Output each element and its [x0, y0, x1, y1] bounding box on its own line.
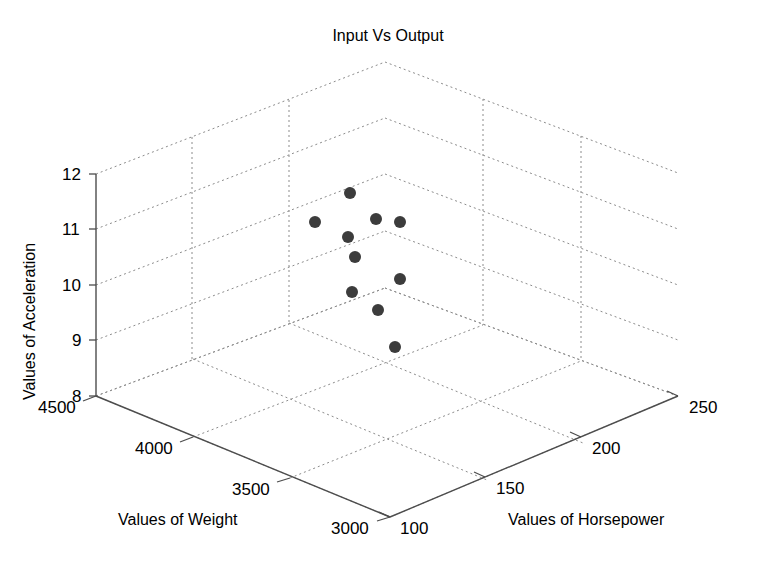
z-tick-label-10: 10: [62, 277, 81, 294]
x-tick-label-3000: 3000: [331, 520, 369, 537]
y-tick-label-100: 100: [400, 520, 428, 537]
y-tick-label-150: 150: [496, 480, 524, 497]
floor-grid: [96, 288, 678, 517]
axis-lines: [96, 174, 678, 517]
back-right-wall-grid: [385, 62, 678, 396]
data-points-group: [309, 187, 406, 353]
y-axis-line: [390, 396, 678, 517]
data-point: [394, 216, 406, 228]
z-tick-label-11: 11: [62, 221, 80, 238]
x-tick-label-4000: 4000: [135, 440, 173, 457]
scatter3d-plot: [0, 0, 758, 572]
back-left-wall-grid: [96, 62, 385, 396]
figure-canvas: Input Vs Output Values of Acceleration 1…: [0, 0, 758, 572]
data-point: [389, 341, 401, 353]
data-point: [394, 273, 406, 285]
data-point: [309, 216, 321, 228]
x-tick-label-3500: 3500: [232, 481, 270, 498]
z-axis-ticks: [89, 174, 96, 396]
x-tick-label-4500: 4500: [38, 399, 76, 416]
x-axis-ticks: [83, 396, 390, 521]
x-axis-label: Values of Weight: [118, 512, 237, 528]
chart-title: Input Vs Output: [258, 28, 518, 44]
z-axis-label: Values of Acceleration: [22, 243, 38, 400]
y-axis-label: Values of Horsepower: [508, 512, 664, 528]
y-tick-label-250: 250: [689, 399, 717, 416]
z-tick-label-12: 12: [62, 166, 81, 183]
data-point: [342, 231, 354, 243]
data-point: [344, 187, 356, 199]
y-tick-label-200: 200: [592, 440, 620, 457]
data-point: [370, 213, 382, 225]
z-tick-label-9: 9: [72, 332, 81, 349]
y-axis-ticks: [379, 391, 678, 517]
data-point: [372, 304, 384, 316]
data-point: [349, 251, 361, 263]
data-point: [346, 286, 358, 298]
